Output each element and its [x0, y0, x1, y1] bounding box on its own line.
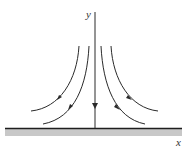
- wall-shading: [5, 129, 182, 136]
- y-axis-label: y: [85, 8, 91, 20]
- stagnation-flow-diagram: y x: [0, 0, 189, 148]
- y-axis-arrow-icon: [92, 103, 98, 109]
- streamline-left-inner: [43, 46, 89, 124]
- x-axis-label: x: [175, 136, 181, 148]
- streamline-right-inner: [101, 46, 145, 124]
- streamline-left-outer: [31, 46, 79, 111]
- streamline-right-outer: [111, 46, 158, 111]
